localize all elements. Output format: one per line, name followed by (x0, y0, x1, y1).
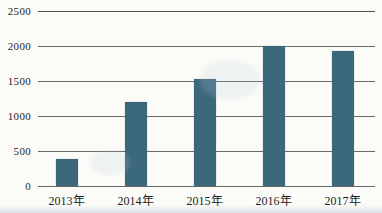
x-tick-label: 2015年 (173, 194, 237, 208)
x-tick-label: 2013年 (35, 194, 99, 208)
bar-chart-figure: 050010001500200025002013年2014年2015年2016年… (0, 0, 382, 213)
x-tick-label: 2017年 (311, 194, 375, 208)
y-tick-label: 2000 (0, 40, 31, 53)
x-tick-label: 2016年 (242, 194, 306, 208)
bar-2013 (56, 159, 78, 186)
y-tick-label: 1000 (0, 110, 31, 123)
y-tick-label: 0 (0, 180, 31, 193)
bar-2017 (332, 51, 354, 186)
y-tick-label: 2500 (0, 5, 31, 18)
bar-2015 (194, 79, 216, 186)
gridline-2500 (38, 11, 375, 12)
y-tick-label: 1500 (0, 75, 31, 88)
y-tick-label: 500 (0, 145, 31, 158)
x-tick-label: 2014年 (104, 194, 168, 208)
bar-2016 (263, 46, 285, 186)
bar-2014 (125, 102, 147, 186)
gridline-2000 (38, 46, 375, 47)
gridline-0 (38, 186, 375, 187)
